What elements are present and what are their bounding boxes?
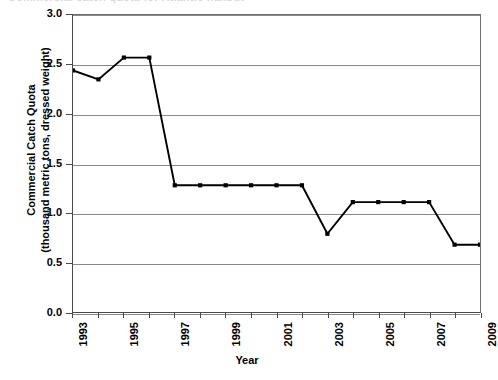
data-point-2006: [402, 200, 406, 204]
data-point-2005: [376, 200, 380, 204]
plot-area: [72, 14, 481, 313]
y-axis-label-line1: Commercial Catch Quota: [25, 84, 37, 215]
y-tick-mark-0.5: [66, 263, 72, 264]
data-point-2009: [478, 243, 480, 247]
x-tick-mark-2008: [455, 313, 456, 318]
y-tick-mark-1.0: [66, 213, 72, 214]
x-tick-mark-2004: [353, 313, 354, 318]
y-tick-mark-3.0: [66, 14, 72, 15]
x-tick-mark-1998: [200, 313, 201, 318]
x-tick-mark-1996: [149, 313, 150, 318]
data-point-1994: [96, 77, 100, 81]
x-tick-mark-2001: [277, 313, 278, 318]
x-tick-label-1999: 1999: [230, 322, 242, 346]
x-tick-mark-1993: [72, 313, 73, 318]
y-tick-label-1.5: 1.5: [36, 157, 62, 169]
x-tick-mark-2003: [328, 313, 329, 318]
x-tick-mark-2006: [404, 313, 405, 318]
data-point-1995: [122, 55, 126, 59]
x-tick-mark-2005: [379, 313, 380, 318]
data-point-1993: [73, 68, 75, 72]
y-axis-label: Commercial Catch Quota (thousand metric …: [24, 0, 52, 300]
data-point-2000: [249, 183, 253, 187]
x-tick-label-1993: 1993: [77, 322, 89, 346]
series-markers: [73, 55, 480, 246]
x-tick-mark-2007: [430, 313, 431, 318]
data-point-2001: [274, 183, 278, 187]
data-point-2004: [351, 200, 355, 204]
x-tick-label-2007: 2007: [435, 322, 447, 346]
x-tick-mark-1999: [225, 313, 226, 318]
series-polyline: [73, 58, 480, 245]
y-tick-label-0.0: 0.0: [36, 306, 62, 318]
x-tick-label-1997: 1997: [179, 322, 191, 346]
data-point-1998: [198, 183, 202, 187]
y-tick-label-0.5: 0.5: [36, 256, 62, 268]
data-point-2007: [427, 200, 431, 204]
x-axis-label: Year: [0, 354, 494, 366]
data-point-2003: [325, 232, 329, 236]
x-tick-label-1995: 1995: [128, 322, 140, 346]
data-point-2002: [300, 183, 304, 187]
y-axis-label-line2: (thousand metric tons, dressed weight): [38, 0, 52, 300]
y-tick-label-1.0: 1.0: [36, 206, 62, 218]
x-tick-label-2009: 2009: [486, 322, 498, 346]
x-tick-label-2005: 2005: [384, 322, 396, 346]
y-tick-label-3.0: 3.0: [36, 7, 62, 19]
data-series-line: [73, 15, 480, 312]
x-tick-mark-2009: [481, 313, 482, 318]
x-tick-label-2001: 2001: [282, 322, 294, 346]
x-tick-label-2003: 2003: [333, 322, 345, 346]
y-tick-mark-2.0: [66, 114, 72, 115]
data-point-1997: [173, 183, 177, 187]
y-tick-label-2.5: 2.5: [36, 57, 62, 69]
x-tick-mark-1997: [174, 313, 175, 318]
y-tick-mark-2.5: [66, 64, 72, 65]
x-tick-mark-1995: [123, 313, 124, 318]
x-tick-mark-2002: [302, 313, 303, 318]
x-tick-mark-2000: [251, 313, 252, 318]
y-tick-label-2.0: 2.0: [36, 107, 62, 119]
y-tick-mark-1.5: [66, 164, 72, 165]
data-point-1999: [224, 183, 228, 187]
data-point-1996: [147, 55, 151, 59]
x-tick-mark-1994: [98, 313, 99, 318]
data-point-2008: [452, 243, 456, 247]
